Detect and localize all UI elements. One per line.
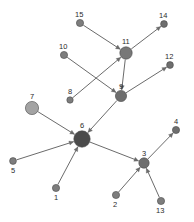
node-label-11: 11 — [122, 38, 130, 46]
node-label-9: 9 — [119, 83, 123, 91]
edge-arrowhead — [146, 168, 150, 173]
graph-svg — [0, 0, 194, 222]
graph-edge — [67, 57, 116, 92]
node-label-3: 3 — [142, 150, 146, 158]
graph-edge — [38, 112, 75, 135]
node-label-4: 4 — [174, 118, 178, 126]
graph-node-14[interactable] — [161, 21, 168, 28]
edge-arrowhead — [134, 157, 139, 161]
graph-edge — [146, 168, 159, 197]
edge-arrowhead — [111, 88, 116, 92]
node-label-10: 10 — [59, 43, 67, 51]
node-label-12: 12 — [165, 53, 173, 61]
graph-node-2[interactable] — [112, 191, 119, 198]
node-label-1: 1 — [54, 194, 58, 202]
node-label-13: 13 — [156, 207, 164, 215]
graph-node-9[interactable] — [115, 90, 126, 101]
node-label-2: 2 — [113, 201, 117, 209]
node-label-8: 8 — [68, 88, 72, 96]
graph-node-3[interactable] — [139, 158, 149, 168]
node-label-5: 5 — [11, 167, 15, 175]
graph-node-11[interactable] — [120, 47, 132, 59]
graph-node-13[interactable] — [157, 197, 164, 204]
graph-node-10[interactable] — [60, 51, 67, 58]
edge-layer — [17, 25, 173, 197]
node-label-7: 7 — [30, 93, 34, 101]
graph-node-5[interactable] — [10, 158, 17, 165]
graph-edge — [88, 100, 117, 132]
network-graph-canvas: 123456789101112131415 — [0, 0, 194, 222]
graph-edge — [119, 167, 141, 192]
graph-edge — [131, 26, 161, 49]
graph-node-4[interactable] — [172, 126, 179, 133]
graph-node-6[interactable] — [74, 131, 90, 147]
node-label-15: 15 — [75, 11, 83, 19]
graph-node-8[interactable] — [67, 97, 73, 103]
graph-node-12[interactable] — [167, 62, 174, 69]
graph-node-15[interactable] — [76, 19, 83, 26]
graph-node-7[interactable] — [25, 101, 38, 114]
node-label-14: 14 — [159, 12, 167, 20]
graph-edge — [83, 25, 120, 49]
graph-edge — [126, 67, 167, 93]
node-layer — [10, 19, 180, 204]
graph-edge — [58, 147, 78, 185]
edge-arrowhead — [69, 141, 74, 145]
graph-edge — [90, 142, 139, 161]
graph-edge — [17, 142, 74, 160]
graph-edge — [148, 133, 173, 159]
node-label-6: 6 — [80, 122, 84, 130]
graph-node-1[interactable] — [52, 184, 59, 191]
